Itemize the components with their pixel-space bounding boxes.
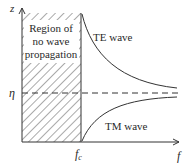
diagram-canvas: z f η Region of no wave propagation TE w… — [0, 0, 188, 166]
cutoff-label: fc — [75, 147, 82, 162]
tm-wave-label: TM wave — [105, 120, 148, 132]
te-wave-curve — [82, 14, 177, 88]
tm-wave-curve — [82, 97, 177, 141]
region-label-line-1: Region of — [29, 22, 73, 34]
region-label-line-3: propagation — [25, 48, 78, 60]
te-wave-label: TE wave — [93, 31, 133, 43]
eta-label: η — [9, 86, 15, 100]
x-axis-label: f — [177, 149, 182, 163]
y-axis-label: z — [9, 2, 15, 14]
region-label-line-2: no wave — [33, 35, 70, 47]
